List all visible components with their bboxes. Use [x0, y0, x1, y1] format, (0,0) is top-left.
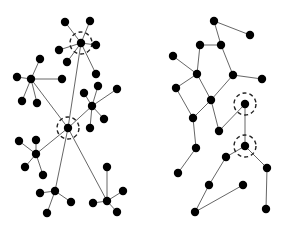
right-network-node-R9: [172, 84, 180, 92]
network-diagram: [0, 0, 283, 226]
left-network-node-E: [32, 150, 40, 158]
right-network-edge-R7-R10: [211, 75, 233, 100]
right-network-node-R22: [262, 205, 270, 213]
right-network-edge-R11-R13: [193, 118, 196, 148]
left-network-node-B2: [36, 55, 44, 63]
left-network-node-D5: [86, 124, 94, 132]
left-network-node-E1: [15, 137, 23, 145]
left-network-node-A: [77, 39, 85, 47]
right-network-edge-R9-R11: [176, 88, 193, 118]
left-network-node-B1: [13, 73, 21, 81]
left-network-node-B4: [18, 97, 26, 105]
right-network-node-R8: [258, 75, 266, 83]
left-network-node-A1: [61, 18, 69, 26]
right-network-node-R11: [189, 114, 197, 122]
left-network-edge-A-C: [68, 43, 81, 128]
right-network-node-R4: [196, 41, 204, 49]
right-network-edge-R17-R22: [266, 168, 267, 209]
left-network-node-F2: [67, 198, 75, 206]
right-network-node-R17: [263, 164, 271, 172]
left-network-node-E3: [21, 163, 29, 171]
left-network-node-D3: [113, 85, 121, 93]
right-network-node-R6: [193, 70, 201, 78]
right-network-edge-R1-R2: [214, 21, 250, 35]
left-network-node-A6: [92, 70, 100, 78]
left-network-node-A3: [55, 46, 63, 54]
right-network-node-R1: [210, 17, 218, 25]
right-network-node-R19: [205, 181, 213, 189]
right-network-node-R20: [191, 208, 199, 216]
right-network-node-R13: [192, 144, 200, 152]
right-network-edge-R4-R6: [197, 45, 200, 74]
right-network-node-R7: [229, 71, 237, 79]
left-network-node-D: [88, 102, 96, 110]
right-network-edge-R10-R12: [211, 100, 219, 131]
right-network-edge-R3-R7: [221, 45, 233, 75]
left-network-node-A4: [92, 41, 100, 49]
right-network-node-R14: [241, 100, 249, 108]
left-network-node-A2: [86, 17, 94, 25]
right-network-node-R2: [246, 31, 254, 39]
left-network-edge-C-G: [68, 128, 107, 201]
left-network-node-E2: [32, 136, 40, 144]
right-network-edge-R13-R18: [178, 148, 196, 173]
left-network-node-G1: [103, 163, 111, 171]
left-network-node-B3: [58, 75, 66, 83]
left-network-node-G: [103, 197, 111, 205]
left-network-node-D4: [100, 115, 108, 123]
left-network-node-F: [51, 187, 59, 195]
left-network-node-B: [27, 75, 35, 83]
left-network-node-F1: [36, 189, 44, 197]
right-network-edge-R16-R19: [209, 157, 226, 185]
left-network-node-E4: [39, 171, 47, 179]
left-network-node-D2: [94, 82, 102, 90]
right-network-node-R21: [239, 181, 247, 189]
left-network-node-B5: [33, 99, 41, 107]
right-network-edge-R7-R8: [233, 75, 262, 79]
right-network-edge-R6-R10: [197, 74, 211, 100]
left-network-edge-D-D3: [92, 89, 117, 106]
left-network-node-C: [64, 124, 72, 132]
right-network-node-R3: [217, 41, 225, 49]
right-network-node-R15: [241, 142, 249, 150]
right-network-node-R16: [222, 153, 230, 161]
right-network-node-R12: [215, 127, 223, 135]
left-network-node-D1: [80, 89, 88, 97]
left-network-node-G4: [113, 208, 121, 216]
right-network-edge-R12-R14: [219, 104, 245, 131]
left-network-node-G2: [119, 187, 127, 195]
edges-layer: [17, 21, 267, 213]
right-network-edge-R5-R6: [173, 56, 197, 74]
right-network-node-R18: [174, 169, 182, 177]
right-network-node-R10: [207, 96, 215, 104]
left-network-node-G3: [89, 199, 97, 207]
left-network-node-F3: [43, 209, 51, 217]
right-network-node-R5: [169, 52, 177, 60]
left-network-node-A5: [63, 58, 71, 66]
